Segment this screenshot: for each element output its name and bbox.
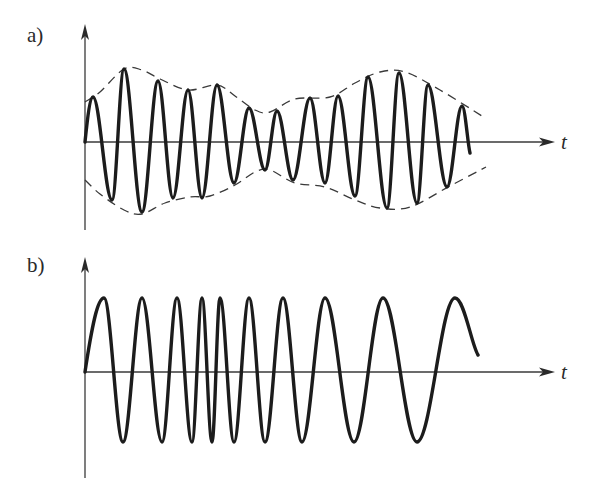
panel-b-fm-waveform — [85, 298, 478, 442]
modulation-figure: a) t b) t — [0, 0, 595, 500]
panel-a-upper-envelope — [85, 67, 482, 116]
panel-a-am-waveform — [85, 69, 470, 212]
panel-a-t-label: t — [561, 130, 568, 154]
panel-a: a) t — [27, 23, 568, 230]
panel-b-label: b) — [27, 253, 45, 277]
panel-b: b) t — [27, 253, 568, 478]
panel-a-label: a) — [27, 23, 43, 47]
panel-b-t-label: t — [561, 360, 568, 384]
